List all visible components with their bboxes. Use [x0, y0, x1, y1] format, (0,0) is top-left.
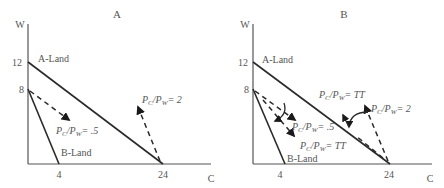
price-label-low: PC/PW= .5	[291, 121, 334, 134]
panel-b-title: B	[340, 8, 347, 20]
a-land-label: A-Land	[262, 54, 293, 65]
b-land-line	[253, 89, 285, 164]
x-axis-label: C	[208, 173, 215, 184]
y-tick-8: 8	[19, 84, 24, 95]
price-arrow-tt-upper	[356, 136, 383, 158]
panel-b: B W C 12 8 4 24 A-Land B-Land PC/PW= .5 …	[238, 8, 434, 184]
x-tick-24: 24	[158, 169, 168, 180]
x-tick-4: 4	[278, 169, 283, 180]
price-label-low: PC/PW= .5	[55, 125, 98, 138]
y-axis-label: W	[240, 19, 250, 30]
price-label-high: PC/PW= 2	[370, 103, 411, 116]
x-tick-4: 4	[57, 169, 62, 180]
y-tick-8: 8	[244, 84, 249, 95]
price-label-high: PC/PW= 2	[141, 94, 182, 107]
a-land-line	[28, 62, 163, 164]
price-arrow-low	[30, 91, 69, 120]
x-axis-label: C	[427, 173, 434, 184]
b-land-label: B-Land	[287, 153, 318, 164]
price-label-tt-lower: PC/PW= TT	[299, 140, 347, 153]
b-land-line	[28, 89, 59, 164]
y-tick-12: 12	[238, 57, 248, 68]
price-arrow-tt-lower	[263, 100, 294, 136]
a-land-label: A-Land	[38, 53, 69, 64]
panel-a-title: A	[113, 8, 121, 20]
price-arrow-low	[255, 91, 295, 120]
rotation-arrow-lower	[275, 103, 285, 121]
rotation-arrow-upper	[349, 112, 368, 127]
b-land-label: B-Land	[61, 147, 92, 158]
x-tick-24: 24	[384, 169, 394, 180]
rotation-arrow-upper-tip	[343, 115, 349, 127]
y-tick-12: 12	[12, 57, 22, 68]
diagram-canvas: A W C 12 8 4 24 A-Land B-Land PC/PW= .5 …	[0, 0, 444, 188]
y-axis-label: W	[15, 19, 25, 30]
panel-a: A W C 12 8 4 24 A-Land B-Land PC/PW= .5 …	[12, 8, 215, 184]
price-label-tt-upper: PC/PW= TT	[318, 89, 366, 102]
